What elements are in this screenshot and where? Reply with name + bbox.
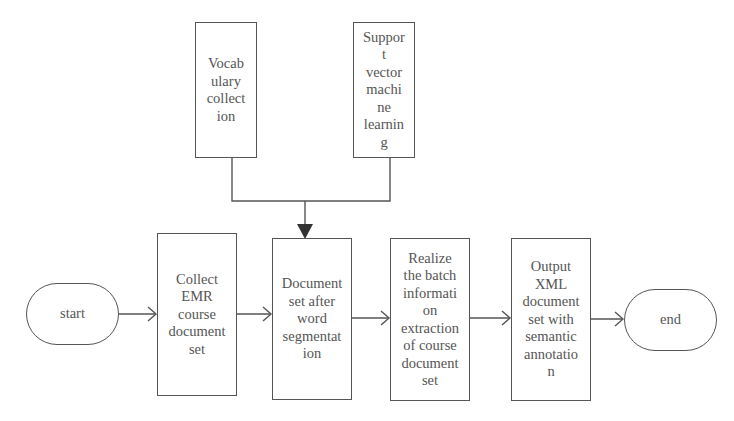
node-word-segmentation: Document set after word segmentat ion: [272, 238, 352, 400]
node-start: start: [26, 283, 119, 345]
node-label: end: [660, 311, 681, 329]
node-label: Collect EMR course document set: [168, 271, 225, 359]
node-label: start: [60, 305, 85, 323]
node-svm-learning: Suppor t vector machi ne learnin g: [353, 22, 415, 158]
arrowhead-solid-icon: [297, 224, 313, 239]
node-label: Vocab ulary collect ion: [207, 55, 246, 125]
node-label: Realize the batch informati on extractio…: [401, 250, 459, 390]
node-label: Output XML document set with semantic an…: [522, 258, 579, 381]
node-batch-extraction: Realize the batch informati on extractio…: [390, 238, 470, 401]
node-output-xml: Output XML document set with semantic an…: [511, 238, 591, 401]
merge-connector: [232, 157, 390, 201]
node-label: Suppor t vector machi ne learnin g: [363, 29, 405, 152]
node-end: end: [624, 289, 717, 351]
node-label: Document set after word segmentat ion: [282, 275, 342, 363]
node-vocabulary-collection: Vocab ulary collect ion: [195, 22, 257, 158]
node-collect-emr: Collect EMR course document set: [157, 233, 237, 396]
